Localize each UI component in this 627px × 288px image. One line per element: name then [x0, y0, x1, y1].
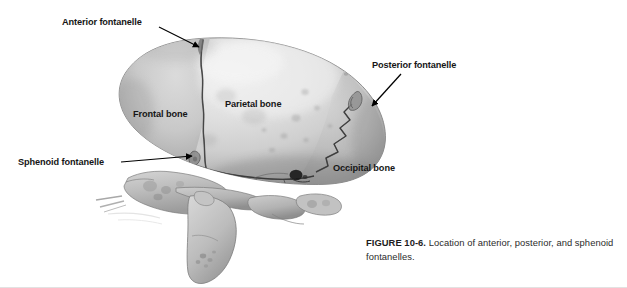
figure-caption: FIGURE 10-6. Location of anterior, poste…: [366, 236, 618, 263]
figure-panel: Anterior fontanelle Frontal bone Parieta…: [0, 0, 627, 288]
label-sphenoid-fontanelle: Sphenoid fontanelle: [18, 157, 104, 168]
label-anterior-fontanelle: Anterior fontanelle: [62, 17, 142, 28]
scan-artifacts: [108, 213, 162, 224]
skull-base-fragments: [248, 194, 342, 224]
figure-number: FIGURE 10-6.: [366, 237, 426, 248]
label-frontal-bone: Frontal bone: [133, 109, 187, 120]
label-parietal-bone: Parietal bone: [225, 99, 281, 110]
label-posterior-fontanelle: Posterior fontanelle: [372, 60, 456, 71]
label-occipital-bone: Occipital bone: [333, 163, 395, 174]
facial-bones: [96, 171, 266, 214]
